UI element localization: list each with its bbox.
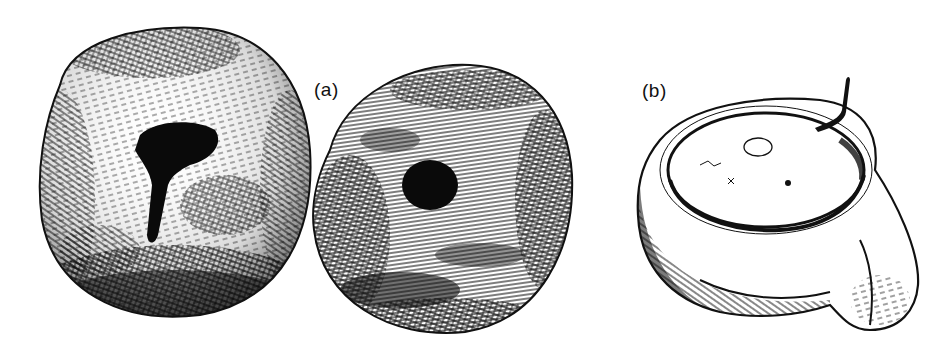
illustration-figure: (a) (b) <box>0 0 940 357</box>
stone-right <box>305 60 580 340</box>
ink-drawing <box>0 0 940 357</box>
panel-label-b: (b) <box>642 80 667 102</box>
panel-label-a: (a) <box>314 79 339 101</box>
stone-left <box>25 20 325 355</box>
lamp-basin <box>668 113 864 227</box>
stone-lamp <box>630 77 918 340</box>
